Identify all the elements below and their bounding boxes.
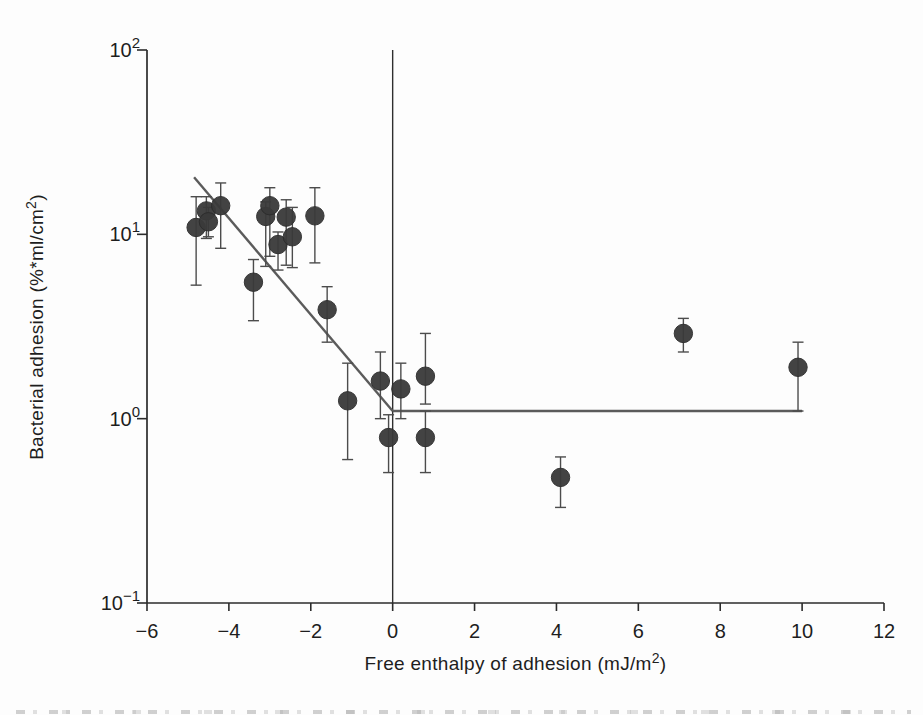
data-point	[306, 207, 324, 225]
y-tick-label: 10−1	[101, 587, 140, 614]
data-point	[212, 196, 230, 214]
y-tick-label: 100	[109, 403, 140, 430]
data-point	[338, 392, 356, 410]
y-axis-title-close: )	[26, 194, 47, 201]
x-tick-label: 10	[791, 620, 813, 642]
scatter-plot-canvas: −6−4−202468101210210110010−1	[0, 0, 923, 715]
y-tick-label: 101	[109, 218, 140, 245]
data-point	[199, 213, 217, 231]
x-tick-label: −6	[136, 620, 159, 642]
x-tick-label: 6	[633, 620, 644, 642]
data-point	[318, 301, 336, 319]
x-tick-label: 4	[551, 620, 562, 642]
x-axis-title: Free enthalpy of adhesion (mJ/m2)	[147, 653, 884, 675]
chart-figure: −6−4−202468101210210110010−1 Free enthal…	[0, 0, 923, 715]
x-tick-label: −4	[217, 620, 240, 642]
y-axis-title: Bacterial adhesion (%*ml/cm2)	[26, 194, 48, 460]
x-axis-title-superscript: 2	[652, 650, 660, 666]
x-tick-label: 12	[873, 620, 895, 642]
data-point	[674, 324, 692, 342]
data-point	[416, 367, 434, 385]
x-tick-label: 8	[715, 620, 726, 642]
data-point	[392, 380, 410, 398]
data-point	[416, 428, 434, 446]
x-tick-label: 0	[387, 620, 398, 642]
data-point	[371, 372, 389, 390]
data-point	[277, 208, 295, 226]
data-point	[261, 196, 279, 214]
data-point	[551, 468, 569, 486]
x-tick-label: −2	[299, 620, 322, 642]
y-axis-title-superscript: 2	[23, 201, 39, 209]
x-axis-title-text: Free enthalpy of adhesion (mJ/m	[365, 653, 652, 674]
data-point	[379, 428, 397, 446]
y-axis-title-text: Bacterial adhesion (%*ml/cm	[26, 209, 47, 460]
cropped-caption-remnant	[16, 710, 911, 714]
y-tick-label: 102	[109, 34, 140, 61]
x-tick-label: 2	[469, 620, 480, 642]
data-point	[283, 228, 301, 246]
data-point	[244, 273, 262, 291]
x-axis-title-close: )	[660, 653, 667, 674]
data-point	[789, 358, 807, 376]
